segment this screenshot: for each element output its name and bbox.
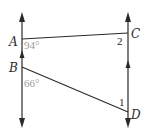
parallel-lines-diagram: A B C D 2 1 94° 66° (0, 0, 151, 133)
arrow-down-icon (19, 118, 25, 128)
point-label-B: B (8, 61, 18, 75)
left-parallel-line (19, 12, 25, 128)
angle-2-label: 2 (117, 35, 123, 47)
arrow-up-icon (19, 12, 25, 22)
parallel-marker-icon (20, 50, 25, 58)
point-label-C: C (131, 27, 140, 41)
arrow-up-icon (125, 12, 131, 22)
angle-B-measure: 66° (24, 77, 39, 89)
transversal-BD (22, 67, 128, 112)
angle-1-label: 1 (119, 96, 125, 108)
angle-A-measure: 94° (24, 39, 39, 51)
point-label-D: D (130, 108, 141, 122)
point-label-A: A (8, 35, 18, 49)
parallel-marker-icon (126, 60, 131, 68)
